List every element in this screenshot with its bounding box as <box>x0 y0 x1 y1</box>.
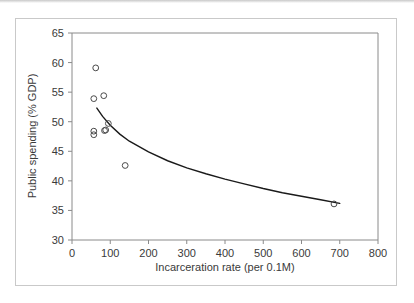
y-tick-label: 30 <box>52 234 64 246</box>
y-tick-label: 55 <box>52 86 64 98</box>
x-axis-tick-labels: 0100200300400500600700800 <box>69 247 387 259</box>
x-axis-title: Incarceration rate (per 0.1M) <box>155 261 294 273</box>
y-tick-label: 65 <box>52 27 64 39</box>
x-tick-label: 200 <box>139 247 157 259</box>
data-point <box>93 65 99 71</box>
scatter-chart: 3035404550556065 01002003004005006007008… <box>0 0 414 303</box>
y-tick-label: 35 <box>52 204 64 216</box>
fit-curve <box>97 108 340 203</box>
x-tick-label: 700 <box>331 247 349 259</box>
data-point <box>122 163 128 169</box>
x-tick-label: 100 <box>101 247 119 259</box>
x-tick-label: 600 <box>292 247 310 259</box>
x-tick-label: 800 <box>369 247 387 259</box>
x-axis-ticks <box>72 240 378 244</box>
y-tick-label: 40 <box>52 175 64 187</box>
data-point <box>101 93 107 99</box>
data-point <box>91 132 97 138</box>
y-axis-ticks <box>68 33 72 240</box>
data-points-group <box>91 65 337 207</box>
plot-axes <box>72 33 378 240</box>
x-tick-label: 0 <box>69 247 75 259</box>
data-point <box>91 96 97 102</box>
y-axis-title: Public spending (% GDP) <box>26 74 38 199</box>
y-axis-tick-labels: 3035404550556065 <box>52 27 64 246</box>
figure-root: 3035404550556065 01002003004005006007008… <box>0 0 414 303</box>
y-tick-label: 50 <box>52 116 64 128</box>
x-tick-label: 300 <box>178 247 196 259</box>
x-tick-label: 400 <box>216 247 234 259</box>
y-tick-label: 60 <box>52 57 64 69</box>
x-tick-label: 500 <box>254 247 272 259</box>
y-tick-label: 45 <box>52 145 64 157</box>
